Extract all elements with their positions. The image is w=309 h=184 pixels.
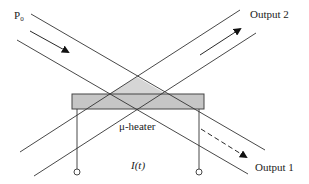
terminal-left: [74, 169, 80, 175]
coupling-region: [109, 77, 166, 94]
output2-label: Output 2: [250, 9, 289, 20]
input-arrow-icon: [30, 31, 68, 52]
output1-dashed-arrow-icon: [201, 129, 246, 157]
terminal-right: [196, 169, 202, 175]
waveguide-output2-lower: [34, 33, 256, 176]
heater-label: μ-heater: [119, 121, 155, 132]
output2-arrow-icon: [200, 29, 240, 55]
current-label: I(t): [131, 160, 145, 171]
output1-label: Output 1: [255, 162, 294, 173]
input-power-label: P0: [14, 10, 24, 23]
micro-heater: [72, 94, 204, 109]
diagram-canvas: [0, 0, 309, 184]
